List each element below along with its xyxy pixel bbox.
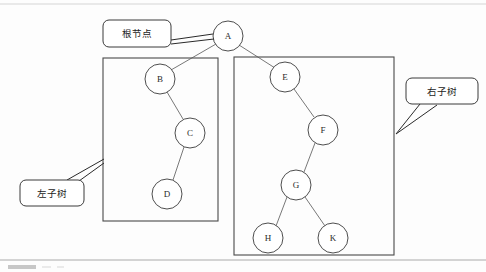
root-callout-label: 根节点 bbox=[122, 28, 152, 39]
node-f[interactable]: F bbox=[308, 115, 338, 145]
node-e[interactable]: E bbox=[270, 62, 300, 92]
node-b[interactable]: B bbox=[145, 64, 175, 94]
node-c-label: C bbox=[187, 128, 193, 138]
callout-leaders bbox=[67, 34, 437, 181]
node-h-label: H bbox=[265, 233, 272, 243]
node-g-label: G bbox=[293, 180, 300, 190]
node-k[interactable]: K bbox=[318, 223, 348, 253]
figure-canvas: A B C D E F G bbox=[0, 0, 486, 272]
edge-b-c bbox=[167, 92, 183, 119]
root-callout[interactable]: 根节点 bbox=[103, 20, 171, 47]
node-k-label: K bbox=[330, 233, 337, 243]
caption-fragment bbox=[8, 265, 36, 269]
left-subtree-callout-leader bbox=[67, 159, 104, 181]
node-d[interactable]: D bbox=[152, 179, 182, 209]
edge-g-k bbox=[305, 197, 325, 226]
node-a-label: A bbox=[225, 31, 232, 41]
callouts: 根节点 左子树 右子树 bbox=[20, 20, 478, 206]
node-d-label: D bbox=[164, 189, 171, 199]
right-subtree-box bbox=[234, 57, 394, 255]
edge-g-h bbox=[276, 197, 287, 226]
node-a[interactable]: A bbox=[213, 21, 243, 51]
edge-e-f bbox=[294, 89, 314, 117]
left-subtree-callout[interactable]: 左子树 bbox=[20, 180, 84, 206]
left-subtree-callout-label: 左子树 bbox=[37, 188, 67, 199]
node-b-label: B bbox=[157, 74, 163, 84]
node-g[interactable]: G bbox=[281, 170, 311, 200]
right-subtree-callout[interactable]: 右子树 bbox=[406, 78, 478, 104]
root-callout-leader bbox=[171, 34, 214, 44]
node-c[interactable]: C bbox=[175, 118, 205, 148]
edge-a-b bbox=[171, 44, 216, 70]
node-h[interactable]: H bbox=[253, 223, 283, 253]
caption-speck-b bbox=[57, 266, 64, 268]
node-e-label: E bbox=[282, 72, 288, 82]
right-subtree-callout-label: 右子树 bbox=[427, 86, 457, 97]
node-f-label: F bbox=[320, 125, 325, 135]
page-frame bbox=[0, 4, 486, 260]
edge-c-d bbox=[173, 147, 184, 180]
tree-nodes: A B C D E F G bbox=[145, 21, 348, 253]
caption-speck-a bbox=[42, 266, 51, 268]
edge-f-g bbox=[304, 143, 315, 172]
tree-diagram-svg: A B C D E F G bbox=[0, 0, 486, 272]
right-subtree-callout-leader bbox=[396, 104, 437, 134]
